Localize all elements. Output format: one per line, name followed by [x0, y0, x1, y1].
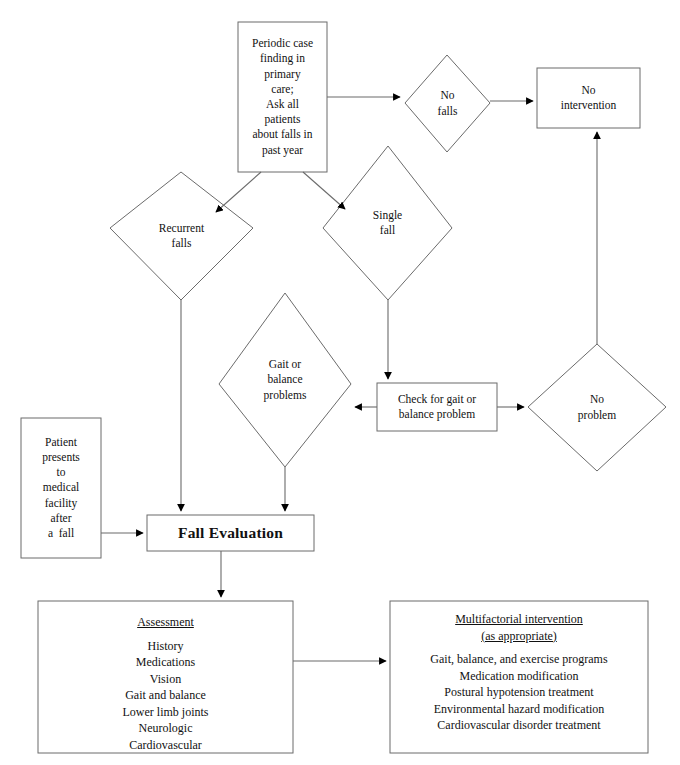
node-patient-presents[interactable] — [21, 418, 101, 558]
node-no-intervention[interactable] — [537, 68, 640, 128]
node-single-fall[interactable] — [323, 146, 452, 300]
assessment-item: Lower limb joints — [123, 704, 209, 721]
multifactorial-item: Cardiovascular disorder treatment — [437, 717, 600, 734]
assessment-item: Neurologic — [139, 720, 193, 737]
assessment-item: Medications — [136, 654, 195, 671]
label-multifactorial-panel: Multifactorial intervention (as appropri… — [390, 611, 648, 734]
assessment-item: History — [148, 638, 184, 655]
node-no-problem[interactable] — [528, 344, 666, 471]
edge-periodic-to-recurrent-falls — [216, 172, 261, 212]
multifactorial-item: Gait, balance, and exercise programs — [430, 651, 607, 668]
assessment-title: Assessment — [137, 614, 194, 631]
node-no-falls[interactable] — [405, 55, 490, 152]
flowchart-canvas: Periodic case finding in primary care; A… — [0, 0, 680, 765]
node-fall-evaluation[interactable] — [147, 515, 314, 551]
edge-periodic-to-single-fall — [303, 172, 345, 209]
assessment-item: Cardiovascular — [129, 737, 202, 754]
multifactorial-item: Medication modification — [460, 668, 579, 685]
multifactorial-item: Environmental hazard modification — [434, 701, 605, 718]
node-gait-or-balance-problems[interactable] — [219, 293, 351, 467]
node-recurrent-falls[interactable] — [110, 172, 253, 300]
assessment-item: Gait and balance — [125, 687, 206, 704]
multifactorial-subtitle: (as appropriate) — [481, 628, 557, 645]
assessment-item: Vision — [150, 671, 181, 688]
label-assessment-panel: Assessment History Medications Vision Ga… — [38, 614, 293, 753]
node-periodic-case-finding[interactable] — [238, 22, 327, 172]
node-check-for-gait[interactable] — [377, 383, 497, 431]
multifactorial-title: Multifactorial intervention — [455, 611, 583, 628]
multifactorial-item: Postural hypotension treatment — [444, 684, 593, 701]
